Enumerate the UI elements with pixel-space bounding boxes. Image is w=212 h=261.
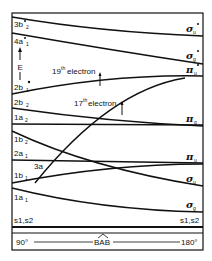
left-label-1b2: 1b 2: [14, 135, 28, 145]
right-label-sigma-u-star: σ u: [186, 23, 199, 35]
svg-text:1: 1: [25, 175, 28, 181]
svg-text:u: u: [193, 29, 196, 35]
antibonding-star-icon: [24, 37, 26, 39]
svg-text:u: u: [193, 179, 196, 185]
line-1a1-sigma-g: [12, 188, 203, 212]
svg-text:π: π: [185, 113, 194, 124]
svg-text:2b: 2b: [14, 83, 23, 92]
left-label-2b2: 2b 2: [14, 98, 29, 108]
left-label-1a1: 1a 1: [14, 193, 28, 203]
svg-text:g: g: [193, 56, 196, 62]
svg-text:1: 1: [25, 197, 28, 203]
svg-text:g: g: [193, 205, 196, 211]
right-label-pi-u-star: π u: [185, 64, 199, 76]
svg-text:π: π: [185, 64, 194, 75]
up-arrow-icon: [99, 72, 102, 76]
left-label-3b2: 3b 2: [14, 20, 29, 30]
svg-text:3b: 3b: [14, 20, 23, 29]
energy-label: E: [18, 63, 23, 72]
left-label-2a1: 2a 1: [14, 149, 28, 159]
svg-text:π: π: [185, 151, 194, 162]
label-3a: 3a: [34, 162, 43, 171]
svg-text:1b: 1b: [14, 171, 23, 180]
svg-text:s1,s2: s1,s2: [180, 216, 200, 225]
right-label-s1s2: s1,s2: [180, 216, 200, 225]
antibonding-star-icon: [197, 50, 199, 52]
left-label-2b1: 2b 1: [14, 81, 30, 93]
svg-text:electron: electron: [88, 99, 116, 108]
line-2b1-pi-u-star: [12, 76, 203, 94]
svg-text:4a: 4a: [14, 37, 23, 46]
svg-text:1a: 1a: [14, 113, 23, 122]
axis-left-label: 90°: [16, 238, 28, 247]
svg-text:th: th: [83, 97, 87, 103]
energy-arrow-icon: [18, 47, 22, 52]
svg-text:electron: electron: [67, 67, 95, 76]
antibonding-star-icon: [24, 20, 26, 22]
svg-text:u: u: [194, 70, 197, 76]
right-label-sigma-g: σ g: [186, 199, 196, 211]
svg-text:2b: 2b: [14, 98, 23, 107]
svg-text:2: 2: [26, 24, 29, 30]
svg-text:2a: 2a: [14, 149, 23, 158]
axis-right-label: 180°: [181, 238, 198, 247]
left-label-s1s2: s1,s2: [14, 216, 34, 225]
antibonding-star-icon: [28, 81, 30, 83]
right-label-sigma-u: σ u: [186, 173, 196, 185]
svg-text:2: 2: [26, 102, 29, 108]
svg-text:2: 2: [25, 139, 28, 145]
svg-text:1a: 1a: [14, 193, 23, 202]
left-label-1b1: 1b 1: [14, 171, 28, 181]
right-label-sigma-g-star: σ g: [186, 50, 199, 62]
annotation-17th-electron: 17 th electron: [74, 97, 124, 115]
antibonding-star-icon: [197, 64, 199, 66]
svg-text:1b: 1b: [14, 135, 23, 144]
right-label-pi-g: π g: [185, 113, 197, 125]
svg-text:1: 1: [25, 153, 28, 159]
svg-text:u: u: [194, 157, 197, 163]
svg-text:g: g: [194, 119, 197, 125]
left-label-4a1: 4a 1: [14, 37, 29, 47]
svg-text:2: 2: [25, 117, 28, 123]
left-label-1a2: 1a 2: [14, 113, 28, 123]
right-label-pi-u: π u: [185, 151, 197, 163]
svg-text:th: th: [61, 65, 65, 71]
line-1a2-pi-g: [12, 124, 203, 125]
antibonding-star-icon: [197, 23, 199, 25]
line-4a1-sigma-g-star: [12, 33, 203, 64]
line-3b2-sigma-u-star: [12, 17, 203, 36]
walsh-diagram: E 3b 2 4a 1 2b 1 2b 2 1a 2 1b 2 2a 1 3a …: [0, 0, 212, 261]
line-3a-pi-u-star: [35, 78, 185, 183]
svg-text:1: 1: [26, 41, 29, 47]
axis-center-label: BAB: [94, 238, 110, 247]
line-2b2-pi-g: [12, 108, 203, 126]
svg-text:3a: 3a: [34, 162, 43, 171]
svg-text:1: 1: [26, 87, 29, 93]
svg-text:s1,s2: s1,s2: [14, 216, 34, 225]
